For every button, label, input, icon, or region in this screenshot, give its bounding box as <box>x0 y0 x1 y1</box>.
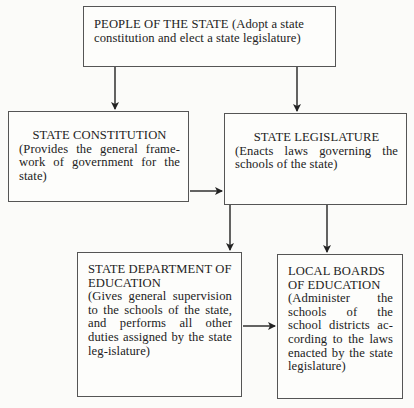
node-title: PEOPLE OF THE STATE <box>94 17 232 31</box>
node-title: STATE CONSTITUTION <box>19 129 180 143</box>
node-description: (Enacts laws governing the schools of th… <box>235 145 398 172</box>
node-description: (Provides the general frame-work of gove… <box>19 143 180 184</box>
node-state-constitution: STATE CONSTITUTION (Provides the general… <box>8 111 189 202</box>
node-title: LOCAL BOARDS OF EDUCATION <box>288 265 393 292</box>
node-local-boards-of-education: LOCAL BOARDS OF EDUCATION (Administer th… <box>277 254 403 399</box>
node-description: (Administer the schools of the school di… <box>288 292 393 374</box>
node-title: STATE DEPARTMENT OF EDUCATION <box>88 263 232 290</box>
node-state-legislature: STATE LEGISLATURE (Enacts laws governing… <box>224 113 407 205</box>
node-people-of-the-state: PEOPLE OF THE STATE (Adopt a state const… <box>83 6 336 67</box>
node-title: STATE LEGISLATURE <box>235 131 398 145</box>
node-description: (Gives general supervision to the school… <box>88 290 232 358</box>
node-state-department-of-education: STATE DEPARTMENT OF EDUCATION (Gives gen… <box>77 252 242 397</box>
